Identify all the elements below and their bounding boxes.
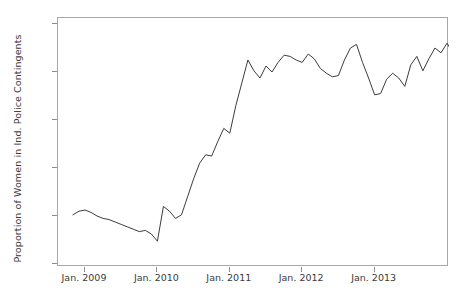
x-tick-mark xyxy=(84,267,85,272)
x-tick-label: Jan. 2010 xyxy=(116,272,196,283)
x-tick-label: Jan. 2013 xyxy=(334,272,414,283)
y-axis-title: Proportion of Women in Ind. Police Conti… xyxy=(8,0,28,297)
chart-figure: Proportion of Women in Ind. Police Conti… xyxy=(0,0,459,297)
plot-area xyxy=(57,17,448,266)
x-tick-mark xyxy=(156,267,157,272)
x-tick-mark xyxy=(301,267,302,272)
x-tick-mark xyxy=(374,267,375,272)
series-line-proportion-women xyxy=(58,18,449,267)
x-tick-label: Jan. 2012 xyxy=(261,272,341,283)
x-tick-mark xyxy=(229,267,230,272)
x-tick-label: Jan. 2011 xyxy=(189,272,269,283)
series-polyline xyxy=(73,23,449,241)
x-tick-label: Jan. 2009 xyxy=(44,272,124,283)
